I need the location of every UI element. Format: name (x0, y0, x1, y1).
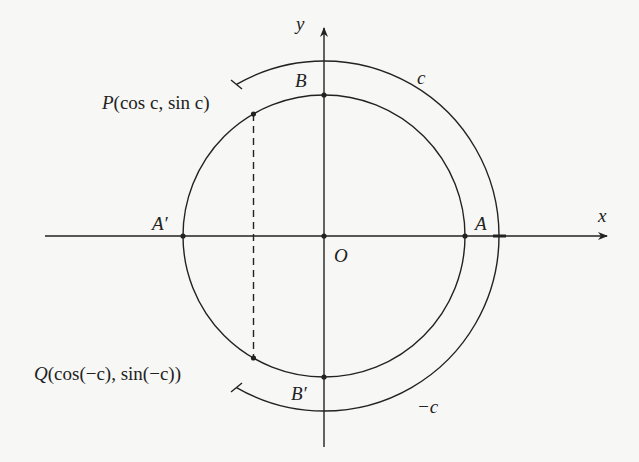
arc-minus-c-label: −c (417, 397, 438, 416)
point-b-prime (321, 374, 326, 379)
point-p-label: P(cos c, sin c) (102, 93, 210, 112)
arc-c-end-tick (231, 80, 242, 89)
diagram-drawing (0, 0, 639, 462)
arc-minus-c-end-tick (231, 383, 242, 392)
point-a-prime (180, 233, 185, 238)
unit-circle-diagram: y x O A A′ B B′ c −c P(cos c, sin c) Q(c… (0, 0, 639, 462)
point-p-coords: (cos c, sin c) (114, 92, 210, 113)
point-b (321, 92, 326, 97)
point-b-prime-label: B′ (291, 384, 307, 403)
point-b-label: B (295, 71, 307, 90)
arc-c (237, 61, 500, 236)
y-axis-label: y (296, 14, 304, 33)
point-a-prime-label: A′ (152, 214, 168, 233)
point-q-coords: (cos(−c), sin(−c)) (48, 363, 181, 384)
point-a-label: A (475, 214, 487, 233)
point-q-label: Q(cos(−c), sin(−c)) (34, 364, 181, 383)
point-p (251, 111, 256, 116)
point-origin (321, 233, 326, 238)
point-p-name: P (102, 92, 114, 113)
x-axis-label: x (598, 206, 606, 225)
origin-label: O (334, 246, 348, 265)
point-q-name: Q (34, 363, 48, 384)
point-q (251, 355, 256, 360)
arc-c-label: c (417, 68, 425, 87)
arc-minus-c (237, 236, 500, 411)
point-a (462, 233, 467, 238)
